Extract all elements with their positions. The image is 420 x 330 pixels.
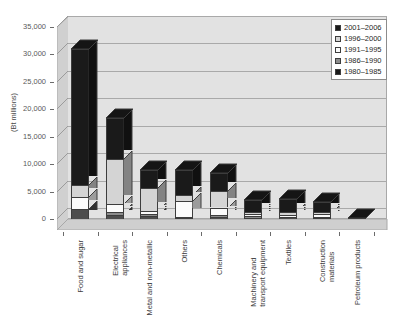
legend-label: 1980–1985 xyxy=(344,67,382,76)
legend-swatch xyxy=(335,69,341,75)
y-axis-tick-labels: 35,00030,00025,00020,00015,00010,0005,00… xyxy=(14,0,54,330)
bar-segment-side xyxy=(227,183,237,198)
bar-segment xyxy=(210,217,228,219)
x-axis-category-label: Metal and non-metallic xyxy=(146,240,155,315)
bar-segment-side xyxy=(296,209,306,210)
bar-segment xyxy=(279,217,297,219)
x-axis-tick-mark xyxy=(339,232,340,236)
bar-segment xyxy=(175,195,193,200)
bar-segment xyxy=(106,215,124,219)
y-axis-tick-label: 30,000 xyxy=(23,50,46,58)
legend-item: 1996–2000 xyxy=(335,33,382,44)
legend-swatch xyxy=(335,36,341,42)
bar-top-face xyxy=(71,39,100,50)
bar-segment-side xyxy=(157,208,167,210)
bar-segment-side xyxy=(192,193,202,208)
bar-group xyxy=(210,173,228,219)
x-axis-tick-mark xyxy=(236,232,237,236)
x-axis-category-label: Electricalappliances xyxy=(112,240,129,276)
bar-segment xyxy=(244,218,262,219)
y-axis-tick-label: 0 xyxy=(42,215,46,223)
bar-segment-side xyxy=(123,207,133,210)
x-axis-category-label: Others xyxy=(181,240,190,263)
bar-group xyxy=(279,199,297,219)
bar-segment xyxy=(244,200,262,212)
bar-segment xyxy=(106,159,124,205)
x-axis-category-label-line: transport equipment xyxy=(259,240,268,307)
y-axis-tick-label: 10,000 xyxy=(23,160,46,168)
bar-segment xyxy=(140,216,158,219)
x-axis-tick-mark xyxy=(63,232,64,236)
bar-segment xyxy=(140,188,158,211)
legend-item: 1980–1985 xyxy=(335,66,382,77)
bar-segment-side xyxy=(157,180,167,202)
legend-swatch xyxy=(335,25,341,31)
bar-group xyxy=(348,218,366,219)
legend-label: 2001–2006 xyxy=(344,23,382,32)
bar-segment xyxy=(140,170,158,188)
bar-top-face xyxy=(279,189,308,200)
bar-group xyxy=(71,49,89,219)
y-axis-tick-mark xyxy=(50,137,54,138)
x-axis-tick-mark xyxy=(201,232,202,236)
x-axis-category-label: Food and sugar xyxy=(77,240,86,293)
x-axis-category-label-line: Others xyxy=(181,240,190,263)
bar-group xyxy=(140,170,158,219)
bar-segment-side xyxy=(192,187,202,191)
bar-segment xyxy=(313,202,331,212)
bar-segment xyxy=(71,209,89,219)
legend-item: 1991–1995 xyxy=(335,44,382,55)
bar-top-face xyxy=(140,160,169,171)
x-axis-category-label-line: Chemicals xyxy=(216,240,225,275)
bar-segment-side xyxy=(123,151,133,196)
bar-segment xyxy=(210,173,228,191)
bar-group xyxy=(313,202,331,219)
y-axis-tick-label: 25,000 xyxy=(23,78,46,86)
x-axis-tick-mark xyxy=(305,232,306,236)
bar-segment xyxy=(71,49,89,185)
x-axis-category-label: Textiles xyxy=(285,240,294,265)
bar-segment-side xyxy=(88,189,98,200)
bar-top-face xyxy=(313,192,342,203)
bar-segment xyxy=(175,170,193,196)
bar-segment xyxy=(279,199,297,212)
y-axis-tick-mark xyxy=(50,192,54,193)
bar-segment xyxy=(106,204,124,212)
legend: 2001–20061996–20001991–19951986–19901980… xyxy=(331,19,387,80)
bar-top-face xyxy=(348,208,377,219)
x-axis-category-label-line: Food and sugar xyxy=(77,240,86,293)
bar-segment xyxy=(210,208,228,216)
x-axis-category-label: Constructionmaterials xyxy=(319,240,336,282)
bar-segment-side xyxy=(227,209,237,210)
bar-segment-side xyxy=(227,207,237,208)
y-axis-tick-label: 15,000 xyxy=(23,133,46,141)
x-axis-category-label: Chemicals xyxy=(216,240,225,275)
bar-segment xyxy=(140,214,158,216)
x-axis-tick-mark xyxy=(132,232,133,236)
y-axis-tick-mark xyxy=(50,27,54,28)
bar-segment-side xyxy=(157,203,167,205)
bar-segment-side xyxy=(296,207,306,208)
bar-segment-side xyxy=(157,206,167,207)
bar-segment xyxy=(313,214,331,217)
legend-item: 1986–1990 xyxy=(335,55,382,66)
bar-segment-side xyxy=(296,204,306,206)
x-axis-category-label-line: appliances xyxy=(120,240,129,276)
bar-segment xyxy=(106,212,124,215)
bar-segment-side xyxy=(330,206,340,208)
x-axis-tick-mark xyxy=(270,232,271,236)
y-axis-tick-label: 20,000 xyxy=(23,105,46,113)
bar-segment xyxy=(244,216,262,217)
bar-segment-side xyxy=(123,196,133,203)
bar-segment xyxy=(244,212,262,214)
bar-segment xyxy=(244,214,262,216)
bar-segment xyxy=(71,185,89,197)
x-axis-tick-mark xyxy=(167,232,168,236)
bar-group xyxy=(106,118,124,219)
bar-group xyxy=(244,200,262,219)
legend-swatch xyxy=(335,47,341,53)
x-axis-category-label-line: Petroleum products xyxy=(354,240,363,305)
x-axis-category-label: Machinery andtransport equipment xyxy=(250,240,267,307)
bar-segment xyxy=(210,215,228,217)
x-axis-category-label: Petroleum products xyxy=(354,240,363,305)
